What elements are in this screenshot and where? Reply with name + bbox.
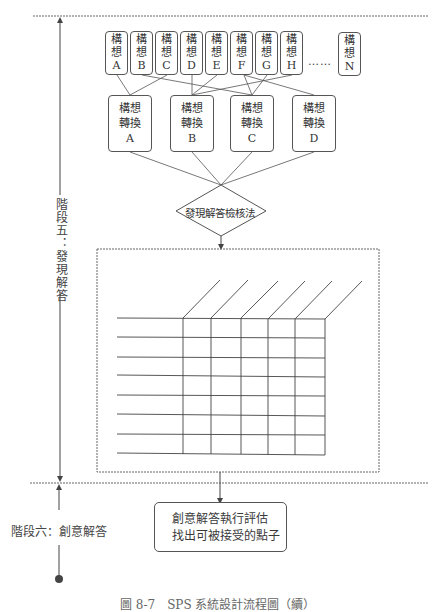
final-box-line1: 創意解答執行評估 [172, 511, 286, 528]
conversion-label: 轉換 [241, 116, 263, 131]
idea-letter: H [287, 60, 297, 72]
idea-box-g: 構 想 G [255, 31, 278, 75]
idea-label: 構 [286, 34, 297, 46]
idea-letter: N [345, 61, 355, 73]
idea-letter: A [113, 60, 121, 72]
idea-box-f: 構 想 F [230, 31, 253, 75]
idea-box-e: 構 想 E [205, 31, 228, 75]
conversion-box-d: 構想 轉換 D [292, 95, 336, 152]
conversion-label: 構想 [119, 101, 141, 116]
decision-label: 發現解答檢核法 [185, 205, 255, 220]
idea-label: 構 [161, 34, 172, 46]
conversion-label: 構想 [303, 101, 325, 116]
idea-label: 構 [344, 35, 355, 47]
idea-letter: D [187, 60, 196, 72]
idea-label: 想 [136, 47, 147, 59]
conversion-box-a: 構想 轉換 A [108, 95, 152, 152]
stage6-label: 階段六：創意解答 [11, 522, 107, 539]
idea-label: 構 [186, 34, 197, 46]
idea-box-n: 構 想 N [338, 32, 361, 76]
evaluation-matrix [117, 280, 362, 455]
matrix-frame [97, 249, 379, 472]
idea-label: 構 [236, 34, 247, 46]
idea-letter: C [162, 60, 170, 72]
conversion-letter: C [248, 131, 256, 146]
conversion-label: 轉換 [119, 116, 141, 131]
stage5-label: 階段五：發現解答 [52, 198, 69, 302]
idea-label: 構 [111, 34, 122, 46]
idea-box-h: 構 想 H [280, 31, 303, 75]
conversion-label: 構想 [241, 101, 263, 116]
conversion-label: 轉換 [181, 116, 203, 131]
idea-label: 構 [261, 34, 272, 46]
idea-box-a: 構 想 A [105, 31, 128, 75]
idea-label: 想 [286, 47, 297, 59]
idea-label: 構 [211, 34, 222, 46]
idea-label: 想 [211, 47, 222, 59]
idea-label: 構 [136, 34, 147, 46]
idea-label: 想 [344, 48, 355, 60]
idea-box-d: 構 想 D [180, 31, 203, 75]
idea-letter: E [212, 60, 220, 72]
conversion-letter: A [126, 131, 134, 146]
final-box-line2: 找出可被接受的點子 [172, 528, 286, 545]
conversion-label: 構想 [181, 101, 203, 116]
idea-letter: G [262, 60, 271, 72]
conversion-box-b: 構想 轉換 B [170, 95, 214, 152]
idea-label: 想 [161, 47, 172, 59]
conversion-letter: D [310, 131, 319, 146]
final-evaluation-box: 創意解答執行評估 找出可被接受的點子 [154, 502, 287, 552]
conversion-box-c: 構想 轉換 C [230, 95, 274, 152]
figure-caption: 圖 8-7 SPS 系統設計流程圖（續） [120, 595, 315, 612]
idea-label: 想 [261, 47, 272, 59]
conversion-label: 轉換 [303, 116, 325, 131]
idea-box-b: 構 想 B [130, 31, 153, 75]
idea-label: 想 [111, 47, 122, 59]
idea-label: 想 [236, 47, 247, 59]
end-dot [55, 575, 63, 583]
idea-letter: F [238, 60, 246, 72]
conversion-letter: B [188, 131, 196, 146]
idea-box-c: 構 想 C [155, 31, 178, 75]
idea-label: 想 [186, 47, 197, 59]
ellipsis: …… [308, 55, 332, 68]
idea-letter: B [137, 60, 145, 72]
